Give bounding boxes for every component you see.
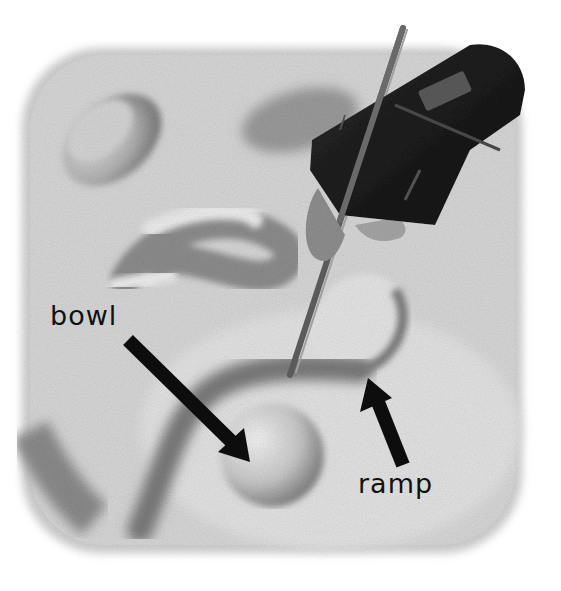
bowl-label: bowl: [50, 300, 117, 331]
sand-drawing-illustration: [0, 0, 561, 591]
ramp-label: ramp: [358, 468, 433, 499]
